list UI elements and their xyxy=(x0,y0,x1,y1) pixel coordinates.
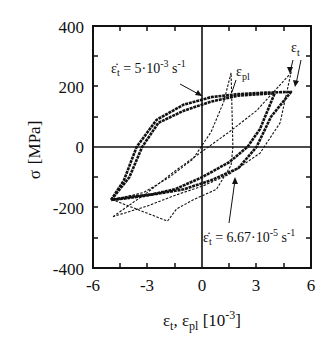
y-tick-400: 400 xyxy=(59,18,85,37)
eps-pl-pointer xyxy=(232,80,236,92)
y-axis-title: σ[MPa] xyxy=(25,121,44,180)
eps-pl-label: εpl xyxy=(236,64,250,82)
slow-rate-arrowhead xyxy=(232,177,238,184)
x-tick-neg3: -3 xyxy=(140,276,154,295)
fast-rate-label: ε̇t = 5·10-3 s-1 xyxy=(111,58,186,78)
series-2-line xyxy=(111,92,291,200)
x-tick-neg6: -6 xyxy=(86,276,100,295)
x-tick-3: 3 xyxy=(252,276,261,295)
y-tick-200: 200 xyxy=(59,78,85,97)
eps-t-label: εt xyxy=(291,40,300,58)
eps-t-arrowhead-2 xyxy=(293,80,299,87)
slow-rate-arrow xyxy=(229,180,235,223)
slow-rate-label: ε̇t = 6.67·10-5 s-1 xyxy=(203,227,295,247)
y-tick-labels: 400 200 0 -200 -400 xyxy=(53,18,84,279)
x-tick-6: 6 xyxy=(307,276,316,295)
eps-t-arrowhead-1 xyxy=(287,67,293,74)
x-tick-labels: -6 -3 0 3 6 xyxy=(86,276,315,295)
eps-t-arrow-2 xyxy=(296,60,301,84)
y-tick-0: 0 xyxy=(76,138,85,157)
hysteresis-chart: 400 200 0 -200 -400 -6 -3 0 3 6 εt, εpl … xyxy=(0,0,326,352)
x-axis-title: εt, εpl [10-3] xyxy=(163,308,241,333)
y-tick-neg200: -200 xyxy=(53,199,84,218)
y-tick-neg400: -400 xyxy=(53,260,84,279)
x-tick-0: 0 xyxy=(198,276,207,295)
